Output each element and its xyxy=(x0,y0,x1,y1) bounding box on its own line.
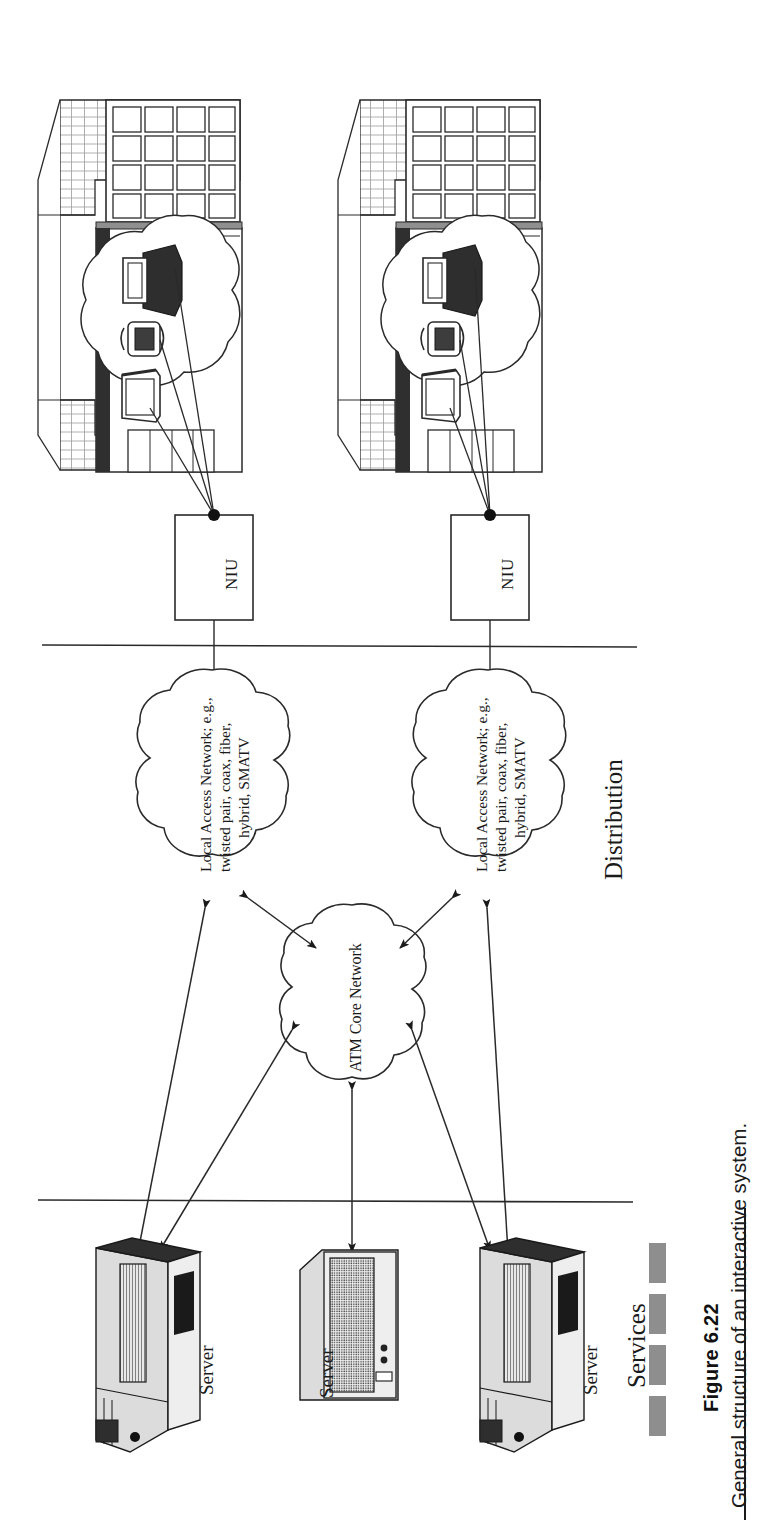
figure-caption: General structure of an interactive syst… xyxy=(727,1123,751,1508)
niu-box-1-label: NIU xyxy=(222,558,242,590)
section-label-services: Services xyxy=(623,1303,651,1388)
caption-swatch-1 xyxy=(649,1243,666,1283)
atm-core-network-label: ATM Core Network xyxy=(347,943,365,1072)
house-window-grid-2 xyxy=(406,100,540,222)
access-cloud-2-line-3: hybrid, SMATV xyxy=(510,737,529,838)
link-access1-core xyxy=(248,898,316,948)
caption-swatch-3 xyxy=(649,1345,666,1385)
caption-swatch-2 xyxy=(649,1294,666,1334)
access-cloud-1-line-3: hybrid, SMATV xyxy=(234,737,253,838)
section-label-distribution: Distribution xyxy=(600,759,628,880)
telephone-icon-2 xyxy=(421,322,464,356)
server-2-label: Server xyxy=(316,1348,338,1398)
link-access2-core xyxy=(400,898,452,948)
caption-swatch-4 xyxy=(649,1396,666,1436)
niu-box-2-label: NIU xyxy=(498,558,518,590)
server-1-graphic[interactable] xyxy=(96,1238,200,1452)
telephone-icon-1 xyxy=(121,322,164,356)
server-3-label: Server xyxy=(580,1345,602,1395)
figure-number: Figure 6.22 xyxy=(700,1303,723,1412)
home-premises-1 xyxy=(38,100,242,515)
access-cloud-2-line-2: twisted pair, coax, fiber, xyxy=(491,723,510,872)
access-cloud-1-line-2: twisted pair, coax, fiber, xyxy=(215,723,234,872)
link-access2-server3 xyxy=(487,908,508,1252)
distribution-services-divider xyxy=(38,1200,633,1202)
access-cloud-1-line-1: Local Access Network; e.g., xyxy=(196,697,215,872)
link-core-server3 xyxy=(412,1030,490,1250)
house-window-grid-1 xyxy=(106,100,240,222)
server-3-graphic[interactable] xyxy=(480,1238,584,1452)
figure-canvas: NIU NIU Local Access Network; e.g., twis… xyxy=(0,0,771,1535)
computer-icon-2 xyxy=(422,370,460,422)
server-2-graphic[interactable] xyxy=(300,1250,398,1400)
link-core-server1 xyxy=(160,1030,292,1250)
access-cloud-2-line-1: Local Access Network; e.g., xyxy=(472,697,491,872)
home-premises-2 xyxy=(338,100,542,515)
server-1-label: Server xyxy=(196,1345,218,1395)
premises-distribution-divider xyxy=(42,645,637,647)
